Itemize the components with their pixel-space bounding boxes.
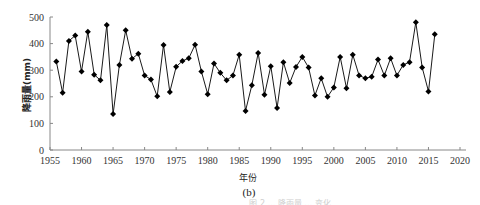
data-point-marker (167, 89, 173, 95)
data-point-marker (142, 73, 148, 79)
data-point-marker (312, 92, 318, 98)
data-point-marker (198, 69, 204, 75)
data-point-marker (123, 27, 129, 33)
x-tick-label: 1975 (166, 155, 186, 166)
chart-canvas: 0100200300400500 19551960196519701975198… (0, 0, 480, 205)
y-axis-ticks: 0100200300400500 (29, 12, 53, 156)
data-point-marker (236, 52, 242, 58)
data-point-marker (110, 111, 116, 117)
x-tick-label: 2010 (387, 155, 407, 166)
data-point-marker (306, 65, 312, 71)
data-point-marker (280, 59, 286, 65)
x-tick-label: 1980 (198, 155, 218, 166)
data-point-marker (400, 62, 406, 68)
data-point-marker (205, 91, 211, 97)
x-tick-label: 1990 (261, 155, 281, 166)
y-tick-label: 400 (29, 38, 44, 49)
data-point-marker (116, 62, 122, 68)
data-point-marker (104, 22, 110, 28)
data-point-marker (161, 42, 167, 48)
data-point-marker (343, 85, 349, 91)
data-point-marker (255, 50, 261, 56)
data-point-marker (154, 93, 160, 99)
y-tick-label: 0 (39, 145, 44, 156)
y-axis-label: 降雨量(mm) (21, 58, 32, 112)
data-point-marker (274, 105, 280, 111)
data-point-marker (79, 69, 85, 75)
data-point-marker (192, 42, 198, 48)
data-point-marker (394, 73, 400, 79)
x-tick-label: 1985 (229, 155, 249, 166)
data-point-marker (53, 58, 59, 64)
data-point-marker (148, 77, 154, 83)
x-tick-label: 1960 (72, 155, 92, 166)
panel-label: (b) (243, 186, 256, 199)
rainfall-series-line (56, 22, 435, 114)
data-point-marker (432, 31, 438, 37)
data-point-marker (413, 19, 419, 25)
data-point-marker (268, 63, 274, 69)
rainfall-series-markers (53, 19, 437, 117)
data-point-marker (211, 61, 217, 67)
data-point-marker (325, 94, 331, 100)
x-tick-label: 2000 (324, 155, 344, 166)
data-point-marker (261, 92, 267, 98)
data-point-marker (249, 82, 255, 88)
series-polyline (56, 22, 435, 114)
x-axis-label: 年份 (239, 172, 257, 183)
data-point-marker (407, 59, 413, 65)
x-tick-label: 2005 (355, 155, 375, 166)
data-point-marker (243, 108, 249, 114)
data-point-marker (287, 80, 293, 86)
y-tick-label: 100 (29, 118, 44, 129)
y-tick-label: 500 (29, 12, 44, 23)
x-tick-label: 1995 (292, 155, 312, 166)
data-point-marker (318, 75, 324, 81)
x-tick-label: 1955 (40, 155, 60, 166)
data-point-marker (186, 55, 192, 61)
data-point-marker (350, 52, 356, 58)
data-point-marker (419, 65, 425, 71)
data-point-marker (331, 84, 337, 90)
x-tick-label: 2020 (450, 155, 470, 166)
data-point-marker (381, 73, 387, 79)
data-point-marker (60, 90, 66, 96)
data-point-marker (85, 29, 91, 35)
data-point-marker (388, 55, 394, 61)
data-point-marker (337, 54, 343, 60)
data-point-marker (369, 74, 375, 80)
data-point-marker (356, 73, 362, 79)
data-point-marker (299, 54, 305, 60)
data-point-marker (293, 64, 299, 70)
x-tick-label: 1970 (135, 155, 155, 166)
figure-caption-faint: 图 2 ... 降雨量 ... 变化 (249, 198, 330, 205)
x-tick-label: 1965 (103, 155, 123, 166)
data-point-marker (362, 75, 368, 81)
axes (50, 17, 466, 150)
data-point-marker (375, 57, 381, 63)
rainfall-line-chart: 0100200300400500 19551960196519701975198… (0, 0, 480, 205)
data-point-marker (425, 88, 431, 94)
x-tick-label: 2015 (418, 155, 438, 166)
